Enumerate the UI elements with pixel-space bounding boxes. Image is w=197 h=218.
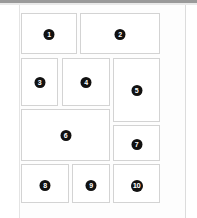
panel-badge-9: 9 <box>86 180 97 191</box>
panel-10[interactable]: 10 <box>113 164 160 203</box>
panel-badge-6: 6 <box>60 130 71 141</box>
panel-badge-1: 1 <box>44 29 55 40</box>
panel-2[interactable]: 2 <box>80 13 160 54</box>
panel-badge-7: 7 <box>131 139 142 150</box>
panel-3[interactable]: 3 <box>21 58 58 106</box>
panel-badge-2: 2 <box>115 29 126 40</box>
panel-9[interactable]: 9 <box>72 164 110 203</box>
panel-badge-5: 5 <box>131 85 142 96</box>
panel-badge-8: 8 <box>40 180 51 191</box>
panel-4[interactable]: 4 <box>62 58 110 106</box>
screenshot-root: 12345678910 <box>0 0 197 218</box>
panel-7[interactable]: 7 <box>113 125 160 161</box>
panel-badge-4: 4 <box>81 77 92 88</box>
panel-1[interactable]: 1 <box>21 13 77 54</box>
panel-badge-3: 3 <box>34 77 45 88</box>
panel-5[interactable]: 5 <box>113 58 160 122</box>
panel-6[interactable]: 6 <box>21 109 110 161</box>
panel-8[interactable]: 8 <box>21 164 69 203</box>
panel-badge-10: 10 <box>131 180 143 192</box>
